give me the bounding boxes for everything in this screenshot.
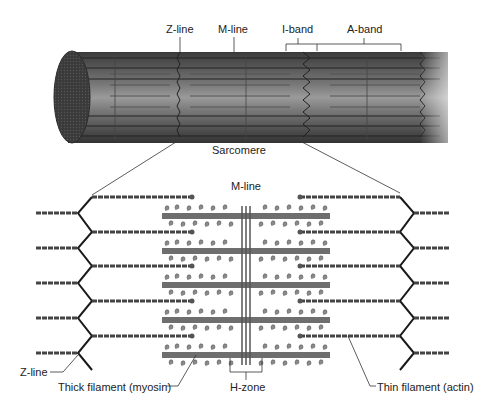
label-m-line-bottom: M-line: [231, 180, 261, 192]
label-z-line-top: Z-line: [166, 23, 194, 35]
muscle-fiber-cylinder: [54, 48, 470, 148]
a-band-bracket: [317, 38, 401, 51]
sarcomere-zoom-line-left: [92, 142, 176, 195]
fiber-cross-section: [54, 51, 90, 143]
z-line-left: [78, 197, 92, 370]
z-line-right: [400, 197, 414, 370]
thin-filament-pointer: [348, 336, 376, 386]
sarcomere-diagram: [0, 0, 493, 412]
label-sarcomere: Sarcomere: [212, 144, 266, 156]
sarcomere-zoom-line-right: [302, 142, 400, 193]
label-a-band: A-band: [347, 23, 382, 35]
label-thick-filament: Thick filament (myosin): [58, 381, 171, 393]
label-h-zone: H-zone: [230, 381, 265, 393]
thin-filaments: [36, 197, 450, 353]
label-m-line-top: M-line: [218, 23, 248, 35]
label-thin-filament: Thin filament (actin): [377, 381, 474, 393]
i-band-bracket: [286, 38, 317, 51]
z-line-bottom-pointer: [50, 355, 78, 372]
label-i-band: I-band: [282, 23, 313, 35]
label-z-line-bottom: Z-line: [20, 366, 48, 378]
